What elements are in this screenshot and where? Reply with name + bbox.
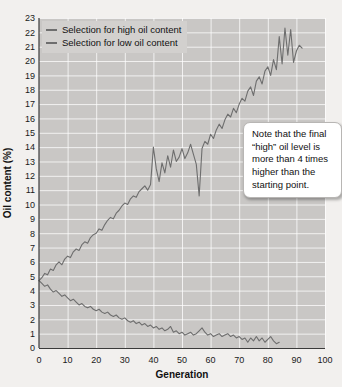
y-axis-title: Oil content (%) [2, 148, 13, 219]
chart-figure: 0123456789101112131415161718192021222301… [0, 0, 342, 387]
y-axis-tick-label: 18 [25, 85, 35, 95]
x-axis-tick-label: 80 [263, 355, 273, 365]
y-axis-tick-label: 12 [25, 171, 35, 181]
legend-item-high: Selection for high oil content [46, 24, 181, 37]
x-axis-tick-label: 90 [291, 355, 301, 365]
legend-line-swatch-low [46, 42, 57, 44]
x-axis-title: Generation [156, 369, 209, 380]
chart-legend: Selection for high oil content Selection… [42, 21, 187, 53]
y-axis-tick-label: 20 [25, 56, 35, 66]
y-axis-tick-label: 13 [25, 157, 35, 167]
y-axis-tick-label: 9 [30, 214, 35, 224]
x-axis-tick-label: 40 [148, 355, 158, 365]
y-axis-tick-label: 2 [30, 315, 35, 325]
y-axis-tick-label: 10 [25, 200, 35, 210]
x-axis-tick-label: 10 [63, 355, 73, 365]
y-axis-tick-label: 7 [30, 243, 35, 253]
y-axis-tick-label: 6 [30, 257, 35, 267]
y-axis-tick-label: 14 [25, 142, 35, 152]
y-axis-tick-label: 19 [25, 71, 35, 81]
legend-label-low: Selection for low oil content [62, 37, 178, 50]
x-axis-tick-label: 0 [36, 355, 41, 365]
legend-label-high: Selection for high oil content [62, 24, 181, 37]
y-axis-tick-label: 8 [30, 229, 35, 239]
y-axis-tick-label: 11 [26, 185, 35, 195]
y-axis-tick-label: 17 [25, 99, 35, 109]
y-axis-tick-label: 23 [25, 13, 35, 23]
legend-item-low: Selection for low oil content [46, 37, 181, 50]
y-axis-tick-label: 15 [25, 128, 35, 138]
annotation-callout: Note that the final “high” oil level is … [243, 122, 342, 198]
y-axis-tick-label: 0 [30, 343, 35, 353]
x-axis-tick-label: 20 [91, 355, 101, 365]
y-axis-tick-label: 22 [25, 28, 35, 38]
legend-line-swatch-high [46, 29, 57, 31]
x-axis-tick-label: 50 [177, 355, 187, 365]
x-axis-tick-label: 70 [234, 355, 244, 365]
y-axis-tick-label: 4 [30, 286, 35, 296]
x-axis-tick-label: 60 [206, 355, 216, 365]
y-axis-tick-label: 1 [30, 329, 35, 339]
x-axis-tick-label: 30 [120, 355, 130, 365]
x-axis-tick-label: 100 [317, 355, 332, 365]
y-axis-tick-label: 21 [25, 42, 35, 52]
y-axis-tick-label: 16 [25, 114, 35, 124]
y-axis-tick-label: 5 [30, 272, 35, 282]
y-axis-tick-label: 3 [30, 300, 35, 310]
